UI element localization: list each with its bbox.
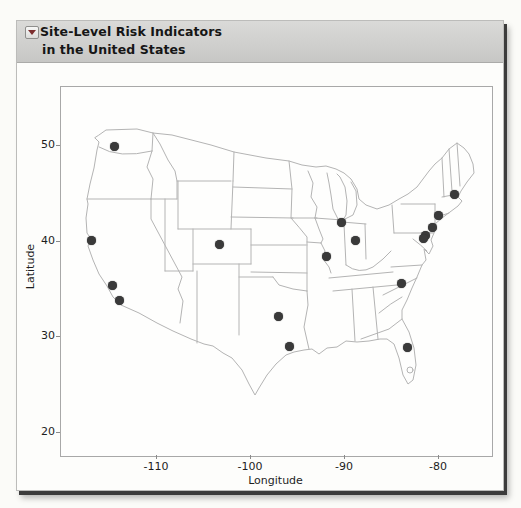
y-tick-label: 30 bbox=[29, 329, 55, 342]
report-window: Site-Level Risk Indicators in the United… bbox=[16, 20, 504, 491]
data-point[interactable] bbox=[274, 312, 283, 321]
x-tick-label: -100 bbox=[230, 460, 270, 473]
y-tick-mark bbox=[56, 145, 60, 146]
y-tick-mark bbox=[56, 336, 60, 337]
x-axis-title: Longitude bbox=[60, 474, 491, 487]
data-point[interactable] bbox=[108, 281, 117, 290]
data-point[interactable] bbox=[115, 296, 124, 305]
y-tick-label: 20 bbox=[29, 425, 55, 438]
x-tick-label: -110 bbox=[136, 460, 176, 473]
triangle-down-icon bbox=[28, 30, 36, 35]
x-tick-mark bbox=[344, 455, 345, 459]
report-title: Site-Level Risk Indicators in the United… bbox=[40, 23, 222, 59]
data-point[interactable] bbox=[419, 234, 428, 243]
page-background: Site-Level Risk Indicators in the United… bbox=[0, 0, 521, 508]
y-tick-mark bbox=[56, 241, 60, 242]
x-tick-mark bbox=[250, 455, 251, 459]
y-tick-mark bbox=[56, 432, 60, 433]
data-point[interactable] bbox=[87, 236, 96, 245]
y-tick-label: 40 bbox=[29, 234, 55, 247]
data-point[interactable] bbox=[434, 211, 443, 220]
data-points-layer bbox=[61, 87, 492, 456]
data-point[interactable] bbox=[285, 342, 294, 351]
data-point[interactable] bbox=[322, 252, 331, 261]
outline-header[interactable]: Site-Level Risk Indicators in the United… bbox=[17, 21, 503, 63]
data-point[interactable] bbox=[351, 236, 360, 245]
data-point[interactable] bbox=[403, 343, 412, 352]
report-title-line1: Site-Level Risk Indicators bbox=[40, 23, 222, 41]
report-body: Latitude 50403020 -110-100-90-80 Longit bbox=[17, 63, 503, 490]
data-point[interactable] bbox=[397, 279, 406, 288]
x-tick-label: -80 bbox=[418, 460, 458, 473]
x-tick-mark bbox=[438, 455, 439, 459]
data-point[interactable] bbox=[110, 142, 119, 151]
y-tick-label: 50 bbox=[29, 138, 55, 151]
x-tick-mark bbox=[156, 455, 157, 459]
data-point[interactable] bbox=[428, 223, 437, 232]
data-point[interactable] bbox=[450, 190, 459, 199]
x-tick-label: -90 bbox=[324, 460, 364, 473]
map-plot-area[interactable] bbox=[60, 86, 493, 457]
disclosure-button[interactable] bbox=[25, 26, 39, 39]
report-title-line2: in the United States bbox=[40, 41, 222, 59]
data-point[interactable] bbox=[337, 218, 346, 227]
data-point[interactable] bbox=[215, 240, 224, 249]
